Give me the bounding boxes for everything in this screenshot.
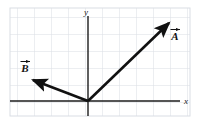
vector-a-label-group: A bbox=[170, 30, 180, 43]
vector-a-label: A bbox=[170, 30, 178, 42]
x-axis-label: x bbox=[183, 96, 188, 106]
vector-diagram-canvas: y x A B bbox=[0, 0, 200, 127]
vector-b-label: B bbox=[20, 62, 28, 74]
vector-diagram-figure: y x A B bbox=[0, 0, 200, 127]
vector-b-label-group: B bbox=[20, 62, 30, 75]
graph-paper-grid bbox=[10, 8, 190, 116]
grid-fill bbox=[10, 8, 190, 116]
y-axis-label: y bbox=[83, 7, 88, 17]
